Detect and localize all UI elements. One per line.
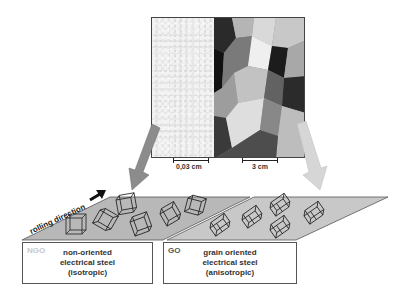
rolling-direction-arrow-icon: [90, 190, 106, 200]
ngo-description: non-oriented electrical steel (isotropic…: [23, 248, 152, 278]
ngo-line-2: electrical steel: [23, 258, 152, 268]
go-description: grain oriented electrical steel (anisotr…: [164, 248, 296, 278]
go-line-3: (anisotropic): [164, 268, 296, 278]
go-label-box: GO grain oriented electrical steel (anis…: [163, 242, 297, 284]
arrow-down-left-icon: [129, 124, 160, 190]
go-line-1: grain oriented: [164, 248, 296, 258]
ngo-label-box: NGO non-oriented electrical steel (isotr…: [22, 242, 153, 284]
ngo-line-3: (isotropic): [23, 268, 152, 278]
go-line-2: electrical steel: [164, 258, 296, 268]
arrow-down-right-icon: [297, 121, 327, 190]
ngo-line-1: non-oriented: [23, 248, 152, 258]
